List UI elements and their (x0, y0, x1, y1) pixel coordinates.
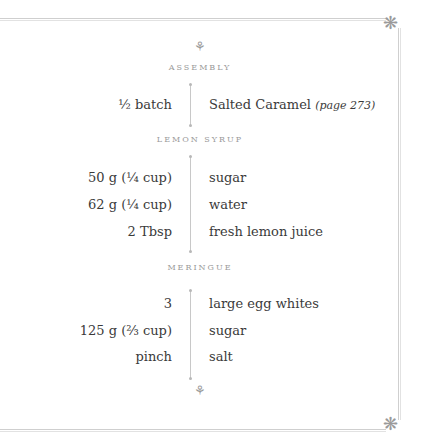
ingredient: large egg whites (209, 294, 319, 314)
ingredient: sugar (209, 321, 246, 341)
ingredient-row: ½ batch Salted Caramel (page 273) (0, 95, 400, 115)
fleuron-bottom-icon: ⚘ (190, 384, 210, 397)
frame-right-border-inner (400, 28, 401, 420)
section-title-lemon-syrup: LEMON SYRUP (0, 135, 400, 144)
quantity: 125 g (⅔ cup) (80, 321, 172, 341)
quantity: pinch (135, 347, 172, 367)
ingredient-name: Salted Caramel (209, 97, 311, 112)
frame-top-border (0, 18, 386, 19)
frame-bottom-border-inner (0, 431, 386, 432)
ingredient: fresh lemon juice (209, 222, 323, 242)
ingredient: water (209, 195, 247, 215)
quantity: 2 Tbsp (128, 222, 172, 242)
ingredient-row: 3 large egg whites (0, 294, 400, 314)
fleuron-top-icon: ⚘ (190, 40, 210, 53)
corner-ornament-icon: ❋ (383, 14, 398, 32)
frame-bottom-border (0, 429, 386, 430)
corner-ornament-icon: ❋ (383, 415, 398, 433)
ingredient: Salted Caramel (page 273) (209, 95, 375, 116)
frame-top-border-inner (0, 20, 386, 21)
quantity: 62 g (¼ cup) (88, 195, 172, 215)
quantity: ½ batch (118, 95, 172, 115)
section-title-assembly: ASSEMBLY (0, 63, 400, 72)
ingredient-row: 125 g (⅔ cup) sugar (0, 321, 400, 341)
quantity: 3 (164, 294, 172, 314)
ingredient-row: 62 g (¼ cup) water (0, 195, 400, 215)
ingredient: sugar (209, 168, 246, 188)
quantity: 50 g (¼ cup) (88, 168, 172, 188)
ingredient: salt (209, 347, 233, 367)
ingredient-row: 2 Tbsp fresh lemon juice (0, 222, 400, 242)
ingredient-row: 50 g (¼ cup) sugar (0, 168, 400, 188)
page-reference: (page 273) (315, 99, 375, 112)
ingredient-row: pinch salt (0, 347, 400, 367)
section-title-meringue: MERINGUE (0, 263, 400, 272)
